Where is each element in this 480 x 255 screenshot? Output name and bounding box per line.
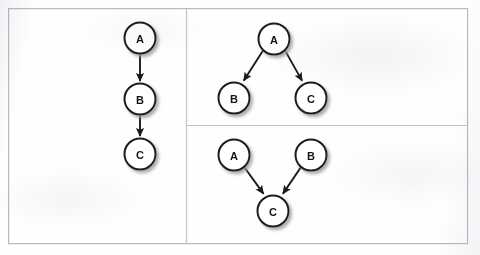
causal-graph-diagram: A B C A B [0,0,480,255]
divider-group [187,9,468,243]
figure-root: A B C A B [0,0,480,255]
node-b-label: B [136,94,144,106]
node-c-label: C [269,206,277,218]
node-c-label: C [307,93,315,105]
edge-a-to-b [244,50,263,80]
panel-chain: A B C [125,23,156,170]
edge-b-to-c [283,167,301,194]
panel-collider-edges [244,167,301,194]
node-c-label: C [136,149,144,161]
node-b-label: B [307,150,315,162]
edge-a-to-c [285,50,302,80]
panel-collider: A B C [219,140,327,227]
edge-a-to-c [244,167,263,194]
node-b-label: B [230,93,238,105]
node-a-label: A [136,33,144,45]
node-a-label: A [230,150,238,162]
node-a-label: A [270,34,278,46]
panel-fork: A B C [219,24,327,114]
